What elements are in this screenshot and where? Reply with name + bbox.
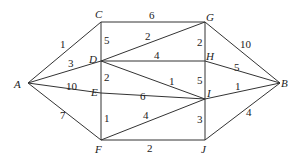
edge-weight-I-J: 3 [197,113,203,125]
weighted-graph-diagram: 13107652412614221055134ACDEFGHIJB [0,0,304,164]
edge-weight-E-F: 1 [104,112,110,124]
edge-weight-A-D: 3 [68,57,74,69]
node-label-C: C [95,8,103,20]
edge-D-G [101,22,205,61]
edge-weight-D-G: 2 [145,30,151,42]
edge-weight-J-B: 4 [246,106,252,118]
edge-weight-H-I: 5 [197,74,203,86]
edge-weight-A-C: 1 [60,38,66,50]
edge-weight-D-E: 2 [104,71,110,83]
edge-G-B [205,22,280,83]
node-label-E: E [90,86,98,98]
node-label-B: B [281,77,288,89]
node-label-G: G [206,11,214,23]
edge-weight-C-G: 6 [149,9,155,21]
edge-weight-D-H: 4 [154,49,160,61]
node-label-A: A [13,78,21,90]
node-label-F: F [94,143,102,155]
edge-weight-E-I: 6 [140,90,146,102]
edge-J-B [205,83,280,140]
edge-weight-G-B: 10 [240,38,252,50]
edge-H-B [205,61,280,83]
edge-weight-G-H: 2 [197,36,203,48]
edge-D-I [101,61,205,99]
edge-weight-C-D: 5 [104,34,110,46]
node-label-J: J [201,143,207,155]
edge-weight-A-E: 10 [66,80,78,92]
edge-weight-H-B: 5 [234,61,240,73]
node-label-H: H [205,50,215,62]
edge-weight-F-J: 2 [147,142,153,154]
node-label-D: D [88,53,97,65]
edge-weight-F-I: 4 [143,109,149,121]
edge-weight-A-F: 7 [60,109,66,121]
edge-F-I [101,99,205,140]
edge-E-I [101,93,205,99]
edge-weight-I-B: 1 [235,80,241,92]
edge-weight-D-I: 1 [169,75,175,87]
